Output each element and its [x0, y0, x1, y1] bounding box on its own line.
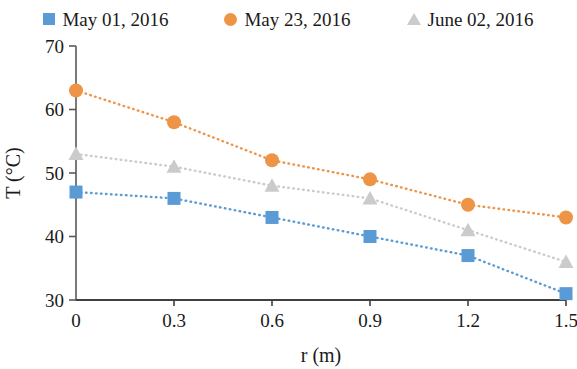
x-tick-label: 0 — [71, 310, 81, 331]
data-point-circle — [69, 83, 83, 97]
data-point-triangle — [363, 191, 378, 205]
data-point-circle — [167, 115, 181, 129]
axis-lines — [76, 46, 566, 300]
data-point-circle — [363, 172, 377, 186]
data-point-square — [560, 287, 573, 300]
data-point-triangle — [265, 178, 280, 192]
x-tick-label: 0.3 — [162, 310, 186, 331]
series-line-2 — [76, 90, 566, 217]
data-point-square — [364, 230, 377, 243]
data-point-square — [70, 186, 83, 199]
data-point-square — [168, 192, 181, 205]
y-axis-ticks: 3040506070 — [45, 36, 76, 311]
data-point-square — [462, 249, 475, 262]
data-point-circle — [461, 198, 475, 212]
x-axis-ticks: 00.30.60.91.21.5 — [71, 300, 577, 331]
data-point-triangle — [167, 159, 182, 173]
x-tick-label: 1.5 — [554, 310, 577, 331]
y-axis-title: T (°C) — [2, 147, 25, 199]
data-point-circle — [559, 210, 573, 224]
data-series — [69, 83, 574, 300]
series-3 — [69, 146, 574, 267]
data-point-square — [266, 211, 279, 224]
y-tick-label: 60 — [45, 99, 64, 120]
x-axis-title: r (m) — [301, 344, 342, 367]
y-tick-label: 70 — [45, 36, 64, 57]
series-2 — [69, 83, 573, 224]
plot-area: 3040506070 00.30.60.91.21.5 r (m)T (°C) — [0, 0, 577, 369]
y-tick-label: 40 — [45, 226, 64, 247]
data-point-circle — [265, 153, 279, 167]
series-line-1 — [76, 192, 566, 294]
y-tick-label: 30 — [45, 290, 64, 311]
x-tick-label: 0.9 — [358, 310, 382, 331]
data-point-triangle — [69, 146, 84, 160]
x-tick-label: 1.2 — [456, 310, 480, 331]
chart-figure: May 01, 2016 May 23, 2016 June 02, 2016 … — [0, 0, 577, 369]
data-point-triangle — [559, 254, 574, 268]
x-tick-label: 0.6 — [260, 310, 284, 331]
y-tick-label: 50 — [45, 163, 64, 184]
chart-canvas: 3040506070 00.30.60.91.21.5 r (m)T (°C) — [0, 0, 577, 369]
series-1 — [70, 186, 573, 301]
